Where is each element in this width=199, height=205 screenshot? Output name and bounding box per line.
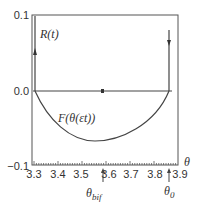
chart: 0.1 0.0 −0.1 3.3 3.4 3.5 3.6 3.7 3.8 3.9… xyxy=(0,0,199,205)
f-curve xyxy=(35,91,169,141)
x-axis-label: θ xyxy=(184,155,190,169)
r-label: R(t) xyxy=(39,27,59,41)
center-marker xyxy=(101,89,104,93)
arrow-down-icon xyxy=(167,40,171,46)
y-tick-0.1: 0.1 xyxy=(14,9,29,21)
x-tick-3.4: 3.4 xyxy=(50,168,65,180)
x-tick-3.7: 3.7 xyxy=(123,168,138,180)
x-tick-3.3: 3.3 xyxy=(26,168,41,180)
x-tick-3.5: 3.5 xyxy=(73,168,88,180)
x-minor-ticks xyxy=(34,161,176,165)
theta-bif-label: θbif xyxy=(86,186,103,202)
f-label: F(θ(εt)) xyxy=(57,111,95,125)
arrow-up-icon xyxy=(33,48,37,55)
y-tick-0.0: 0.0 xyxy=(14,85,29,97)
theta-0-label: θ0 xyxy=(164,184,175,200)
x-tick-3.8: 3.8 xyxy=(147,168,162,180)
x-tick-3.9: 3.9 xyxy=(172,168,187,180)
arrow-up-icon xyxy=(167,168,171,173)
